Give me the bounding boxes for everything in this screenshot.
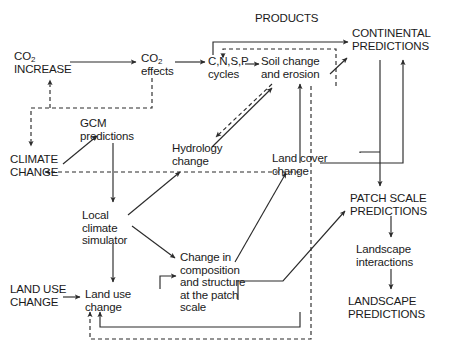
node-hydrology-change[interactable]: Hydrologychange — [172, 142, 222, 167]
node-landscape-interactions[interactable]: Landscapeinteractions — [356, 243, 413, 268]
node-hydrology-change-label: Hydrologychange — [172, 142, 222, 167]
edge-soil-hydrology-dashed — [216, 84, 272, 137]
node-landscape-predictions-label: LANDSCAPEPREDICTIONS — [348, 295, 425, 320]
node-continental-predictions[interactable]: CONTINENTALPREDICTIONS — [352, 27, 431, 52]
node-patch-scale-predictions[interactable]: PATCH SCALEPREDICTIONS — [350, 192, 427, 217]
node-cnsp-cycles[interactable]: C,N,S,Pcycles — [208, 55, 249, 80]
node-gcm-predictions-label: GCMpredictions — [80, 117, 134, 142]
node-land-cover-change-label: Land coverchange — [272, 152, 327, 177]
node-landscape-interactions-label: Landscapeinteractions — [356, 243, 413, 268]
node-climate-change-label: CLIMATECHANGE — [10, 153, 58, 178]
node-cnsp-cycles-label: C,N,S,Pcycles — [208, 55, 249, 80]
node-patch-scale-predictions-label: PATCH SCALEPREDICTIONS — [350, 192, 427, 217]
node-land-cover-change[interactable]: Land coverchange — [272, 152, 327, 177]
node-land-use-change[interactable]: Land usechange — [85, 288, 131, 313]
node-local-climate-simulator-label: Localclimatesimulator — [82, 209, 127, 246]
node-gcm-predictions[interactable]: GCMpredictions — [80, 117, 134, 142]
edge-localsim-patchchange — [132, 226, 175, 258]
node-products: PRODUCTS — [255, 12, 318, 25]
node-land-use-change-input-label: LAND USECHANGE — [10, 283, 66, 308]
node-soil-change-label: Soil changeand erosion — [261, 55, 319, 80]
edge-continental-patchscale — [360, 60, 380, 186]
edge-landcover-continental — [320, 60, 403, 163]
edge-patchchange-patchscale — [238, 211, 345, 300]
node-co2-effects[interactable]: CO2effects — [141, 52, 174, 77]
edge-localsim-hydrology — [128, 172, 180, 215]
edge-soil-continental — [330, 58, 347, 74]
node-climate-change[interactable]: CLIMATECHANGE — [10, 153, 58, 178]
node-co2-increase[interactable]: CO2INCREASE — [14, 50, 72, 75]
node-land-use-change-label: Land usechange — [85, 288, 131, 313]
node-patch-change[interactable]: Change incompositionand structureat the … — [180, 251, 245, 314]
node-landscape-predictions[interactable]: LANDSCAPEPREDICTIONS — [348, 295, 425, 320]
edge-patchchange-landcover — [235, 173, 286, 262]
node-products-label: PRODUCTS — [255, 12, 318, 24]
node-soil-change[interactable]: Soil changeand erosion — [261, 55, 319, 80]
node-patch-change-label: Change incompositionand structureat the … — [180, 251, 245, 313]
edge-hydrology-soil — [212, 88, 272, 147]
node-local-climate-simulator[interactable]: Localclimatesimulator — [82, 209, 127, 247]
node-land-use-change-input[interactable]: LAND USECHANGE — [10, 283, 66, 308]
diagram-canvas: CO2INCREASE CO2effects C,N,S,Pcycles Soi… — [0, 0, 449, 351]
edge-patchscalearea-landuse — [100, 312, 300, 327]
node-continental-predictions-label: CONTINENTALPREDICTIONS — [352, 27, 431, 52]
edge-landuse-patchchange — [160, 276, 176, 289]
